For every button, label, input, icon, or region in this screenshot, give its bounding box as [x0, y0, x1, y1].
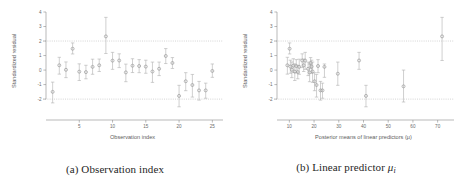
- caption-b-prefix: (b): [296, 161, 309, 173]
- data-point-group: [98, 59, 101, 71]
- y-tick-label: 4: [270, 10, 273, 15]
- data-point-group: [364, 85, 367, 106]
- y-tick-label: -2: [38, 97, 43, 102]
- data-point-group: [144, 60, 147, 73]
- y-axis-title: Standardized residual: [242, 34, 248, 88]
- caption-b-subscript: i: [393, 166, 395, 175]
- caption-b-text: Linear predictor: [312, 161, 385, 173]
- y-tick-label: 3: [39, 24, 42, 29]
- plot-area-b: -2-10123410203040506070Posterior means o…: [231, 0, 461, 140]
- y-tick-label: 1: [270, 53, 273, 58]
- data-point-group: [171, 58, 174, 69]
- caption-a-text: Observation index: [81, 163, 164, 175]
- data-point-group: [315, 74, 318, 97]
- y-tick-label: 0: [39, 68, 42, 73]
- x-tick-label: 40: [361, 124, 367, 129]
- data-point-group: [51, 82, 54, 103]
- data-point-group: [336, 62, 339, 85]
- x-tick-label: 30: [336, 124, 342, 129]
- y-axis-title: Standardized residual: [11, 34, 17, 88]
- x-tick-label: 20: [312, 124, 318, 129]
- x-tick-label: 10: [110, 124, 116, 129]
- data-point-group: [184, 73, 187, 91]
- x-tick-label: 5: [78, 124, 81, 129]
- y-tick-label: -2: [269, 97, 274, 102]
- y-tick-label: 4: [39, 10, 42, 15]
- plot-area-a: -2-101234510152025Observation indexStand…: [0, 0, 230, 140]
- data-point-group: [191, 74, 194, 97]
- data-point-group: [124, 64, 127, 82]
- caption-a-prefix: (a): [66, 163, 79, 175]
- y-tick-label: 3: [270, 24, 273, 29]
- data-point-group: [321, 83, 324, 98]
- x-tick-label: 20: [177, 124, 183, 129]
- data-point-group: [197, 81, 200, 100]
- data-point-group: [104, 17, 107, 53]
- x-tick-label: 15: [143, 124, 149, 129]
- data-point-group: [288, 43, 291, 54]
- x-tick-label: 50: [386, 124, 392, 129]
- data-point-group: [177, 85, 180, 106]
- data-point-group: [78, 64, 81, 81]
- figure-two-panel-residual-plots: -2-101234510152025Observation indexStand…: [0, 0, 461, 177]
- data-point-group: [157, 62, 160, 76]
- data-point-group: [117, 54, 120, 68]
- x-tick-label: 10: [287, 124, 293, 129]
- y-tick-label: -1: [38, 82, 43, 87]
- data-point-group: [357, 52, 360, 69]
- x-tick-label: 60: [410, 124, 416, 129]
- data-point-group: [131, 59, 134, 73]
- data-point-group: [313, 73, 316, 91]
- data-point-group: [71, 43, 74, 54]
- data-point-group: [211, 64, 214, 77]
- y-tick-label: 2: [270, 39, 273, 44]
- data-point-group: [91, 59, 94, 74]
- data-point-group: [440, 17, 443, 60]
- data-point-group: [164, 49, 167, 64]
- x-tick-label: 70: [435, 124, 441, 129]
- data-point-group: [323, 64, 326, 77]
- data-point-group: [151, 62, 154, 82]
- caption-b: (b) Linear predictor μi: [231, 161, 461, 175]
- data-point-group: [319, 81, 322, 100]
- data-point-group: [84, 65, 87, 79]
- x-axis-title: Observation index: [110, 134, 155, 140]
- data-point-group: [58, 57, 61, 74]
- data-point-group: [137, 60, 140, 73]
- panel-a: -2-101234510152025Observation indexStand…: [0, 0, 230, 177]
- data-point-group: [204, 83, 207, 98]
- x-tick-label: 25: [210, 124, 216, 129]
- data-point-group: [316, 60, 319, 73]
- caption-a: (a) Observation index: [0, 163, 230, 175]
- y-tick-label: 1: [39, 53, 42, 58]
- y-tick-label: -1: [269, 82, 274, 87]
- scatter-plot-linear-predictor: -2-10123410203040506070Posterior means o…: [231, 0, 461, 140]
- data-point-group: [111, 52, 114, 69]
- x-axis-title: Posterior means of linear predictors (μ): [315, 134, 412, 140]
- y-tick-label: 2: [39, 39, 42, 44]
- scatter-plot-observation-index: -2-101234510152025Observation indexStand…: [0, 0, 230, 140]
- data-point-group: [286, 57, 289, 74]
- data-point-group: [64, 62, 67, 78]
- panel-b: -2-10123410203040506070Posterior means o…: [231, 0, 461, 177]
- data-point-group: [402, 70, 405, 102]
- y-tick-label: 0: [270, 68, 273, 73]
